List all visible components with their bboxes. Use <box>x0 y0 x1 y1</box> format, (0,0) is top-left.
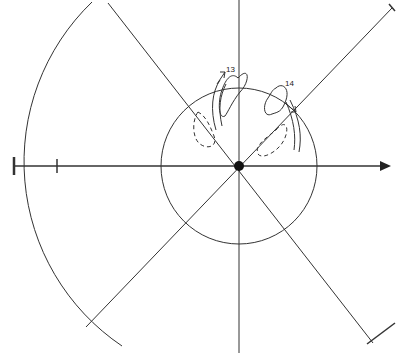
diagonal-axis-135 <box>108 3 373 343</box>
arrow-13 <box>217 72 225 84</box>
arrow-14 <box>286 104 296 112</box>
axis-arrow-head <box>380 161 391 171</box>
loop-14-solid <box>265 86 288 115</box>
loop-13-label: 13 <box>226 65 235 74</box>
loop-14-label: 14 <box>285 79 294 88</box>
outer-arc-left <box>24 2 122 346</box>
loop-14-trail-1 <box>286 102 295 150</box>
polar-diagram: 13 14 <box>0 0 401 353</box>
center-dot <box>234 161 244 171</box>
loop-13-solid <box>219 73 247 116</box>
loop-14-dashed <box>257 125 287 156</box>
